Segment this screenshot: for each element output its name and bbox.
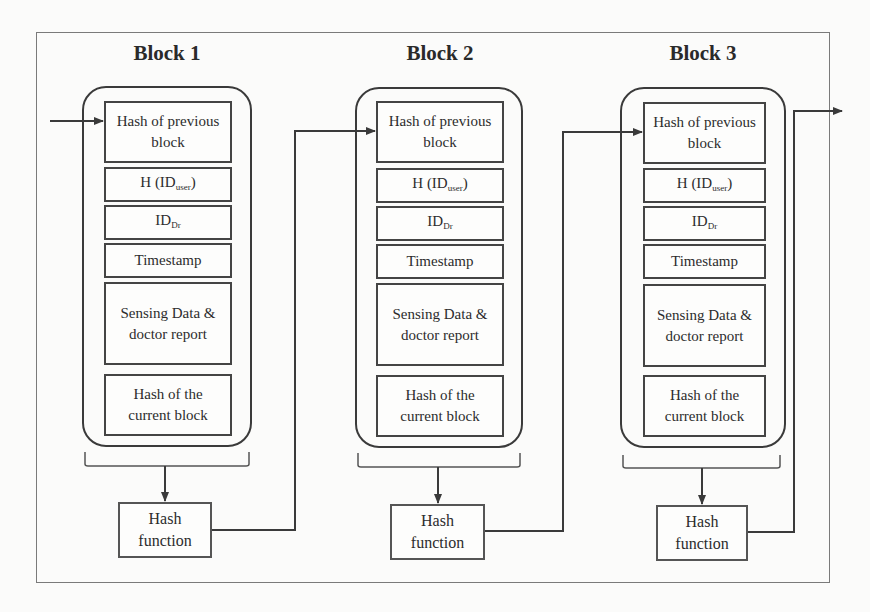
- block-2-user-id-hash-field: H (IDuser): [376, 168, 504, 203]
- block-1-current-hash-field: Hash of the current block: [104, 374, 232, 436]
- current-hash-label: Hash of the current block: [647, 385, 762, 427]
- block-1-doctor-id-field: IDDr: [104, 205, 232, 240]
- block-1-timestamp-field: Timestamp: [104, 243, 232, 278]
- block-1-hash-function: Hash function: [118, 502, 212, 558]
- block-1-user-id-hash-field: H (IDuser): [104, 167, 232, 202]
- user-id-hash-label: H (IDuser): [677, 173, 732, 199]
- block-3-user-id-hash-field: H (IDuser): [643, 168, 766, 203]
- timestamp-label: Timestamp: [135, 250, 202, 271]
- block-3-hash-function: Hash function: [656, 505, 748, 561]
- prev-hash-label: Hash of previous block: [385, 111, 495, 153]
- block-3-prev-hash-field: Hash of previous block: [643, 102, 766, 164]
- block-3-title: Block 3: [618, 41, 788, 66]
- block-3-timestamp-field: Timestamp: [643, 244, 766, 279]
- prev-hash-label: Hash of previous block: [113, 111, 223, 153]
- block-1-title: Block 1: [82, 41, 252, 66]
- user-id-hash-label: H (IDuser): [140, 172, 195, 198]
- timestamp-label: Timestamp: [671, 251, 738, 272]
- doctor-id-label: IDDr: [427, 211, 452, 237]
- block-1-sensing-data-field: Sensing Data & doctor report: [104, 282, 232, 365]
- block-3-doctor-id-field: IDDr: [643, 206, 766, 241]
- doctor-id-label: IDDr: [155, 210, 180, 236]
- block-3-current-hash-field: Hash of the current block: [643, 375, 766, 437]
- current-hash-label: Hash of the current block: [383, 385, 498, 427]
- doctor-id-label: IDDr: [692, 211, 717, 237]
- block-2-current-hash-field: Hash of the current block: [376, 375, 504, 437]
- block-2-prev-hash-field: Hash of previous block: [376, 101, 504, 163]
- sensing-data-label: Sensing Data & doctor report: [118, 303, 218, 345]
- block-3-sensing-data-field: Sensing Data & doctor report: [643, 284, 766, 367]
- block-2-doctor-id-field: IDDr: [376, 206, 504, 241]
- block-1-prev-hash-field: Hash of previous block: [104, 101, 232, 163]
- hash-function-label: Hash function: [403, 510, 473, 554]
- sensing-data-label: Sensing Data & doctor report: [390, 304, 490, 346]
- current-hash-label: Hash of the current block: [111, 384, 226, 426]
- sensing-data-label: Sensing Data & doctor report: [655, 305, 755, 347]
- block-2-timestamp-field: Timestamp: [376, 244, 504, 279]
- prev-hash-label: Hash of previous block: [650, 112, 760, 154]
- block-2-sensing-data-field: Sensing Data & doctor report: [376, 283, 504, 366]
- hash-function-label: Hash function: [130, 508, 200, 552]
- user-id-hash-label: H (IDuser): [412, 173, 467, 199]
- hash-function-label: Hash function: [667, 511, 737, 555]
- timestamp-label: Timestamp: [407, 251, 474, 272]
- block-2-title: Block 2: [355, 41, 525, 66]
- block-2-hash-function: Hash function: [390, 504, 485, 560]
